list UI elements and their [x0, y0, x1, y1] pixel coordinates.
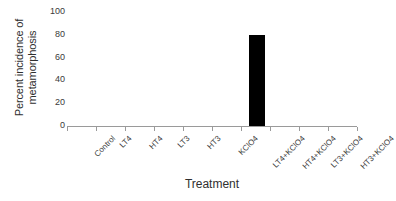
y-tick-label: 40 [55, 74, 65, 85]
y-tick-label: 100 [50, 6, 65, 17]
x-tick-label: HT4 [147, 134, 165, 152]
x-axis-title: Treatment [67, 177, 357, 191]
x-tick-mark [154, 127, 155, 131]
x-tick-label: HT3 [205, 134, 223, 152]
x-tick-mark [212, 127, 213, 131]
y-tick-label: 80 [55, 29, 65, 40]
y-axis-title: Percent incidence of metamorphosis [0, 0, 44, 135]
x-tick-mark [299, 127, 300, 131]
y-tick-label: 0 [60, 120, 65, 131]
x-tick-mark [241, 127, 242, 131]
bar [249, 35, 265, 126]
x-tick-mark [183, 127, 184, 131]
x-tick-mark [67, 127, 68, 131]
x-tick-label: LT3 [176, 134, 192, 150]
x-tick-mark [96, 127, 97, 131]
x-tick-label: KClO4 [237, 134, 261, 158]
plot-area [67, 12, 357, 126]
y-tick-mark [68, 126, 72, 127]
x-tick-mark [328, 127, 329, 131]
y-tick-label: 60 [55, 52, 65, 63]
x-tick-mark [270, 127, 271, 131]
x-tick-mark [357, 127, 358, 131]
y-tick-label: 20 [55, 97, 65, 108]
x-tick-label: LT4 [118, 134, 134, 150]
x-tick-mark [125, 127, 126, 131]
x-tick-label: Control [93, 134, 118, 159]
